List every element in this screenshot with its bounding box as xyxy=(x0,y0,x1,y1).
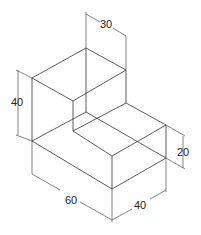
dimension-height: 40 xyxy=(11,97,23,108)
block-lines xyxy=(0,0,201,235)
dimension-top-width: 30 xyxy=(100,19,112,30)
dimension-depth: 40 xyxy=(134,200,146,211)
isometric-drawing: 30 40 20 60 40 xyxy=(0,0,201,235)
dimension-step-height: 20 xyxy=(177,147,189,158)
dimension-length: 60 xyxy=(65,195,77,206)
